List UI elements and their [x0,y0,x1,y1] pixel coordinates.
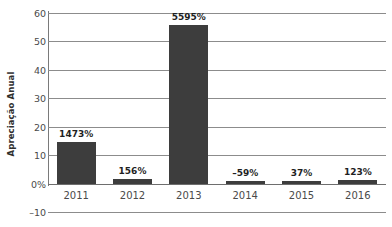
gridline [48,41,386,42]
bar-value-label: 1473% [59,129,93,139]
y-axis-tick-label: 30 [22,93,46,104]
bar[interactable] [169,25,208,184]
bar-value-label: 37% [291,168,313,178]
y-axis-tick-label: 0% [22,178,46,189]
gridline [48,13,386,14]
x-axis-tick-label: 2012 [120,190,145,201]
bar-value-label: 156% [119,166,147,176]
plot-area: 1473%2011156%20125595%2013–59%201437%201… [48,0,386,227]
y-axis-tick-label: 10 [22,150,46,161]
bar[interactable] [57,142,96,184]
y-axis-tick-label: –10 [22,207,46,218]
bar-chart: Apreciação Anual 6050403020100%–10 1473%… [0,0,392,227]
bar[interactable] [226,181,265,184]
y-axis-tick-label: 40 [22,64,46,75]
bar[interactable] [113,179,152,183]
gridline [48,127,386,128]
x-axis-tick-label: 2011 [63,190,88,201]
x-axis-tick-label: 2013 [176,190,201,201]
bar-value-label: –59% [232,168,258,178]
zero-gridline [48,184,386,185]
x-axis-tick-label: 2016 [345,190,370,201]
bar[interactable] [282,181,321,184]
y-axis-tick-label: 60 [22,8,46,19]
gridline [48,98,386,99]
x-axis-tick-label: 2015 [289,190,314,201]
y-axis-tick-labels: 6050403020100%–10 [22,0,46,227]
bar-value-label: 5595% [172,12,206,22]
y-axis-tick-label: 50 [22,36,46,47]
bar-value-label: 123% [344,167,372,177]
y-axis-title: Apreciação Anual [0,0,22,227]
y-axis-tick-label: 20 [22,121,46,132]
gridline [48,70,386,71]
y-axis-title-text: Apreciação Anual [6,71,16,156]
x-axis-tick-label: 2014 [232,190,257,201]
gridline [48,212,386,213]
bar[interactable] [338,180,377,183]
gridline [48,155,386,156]
